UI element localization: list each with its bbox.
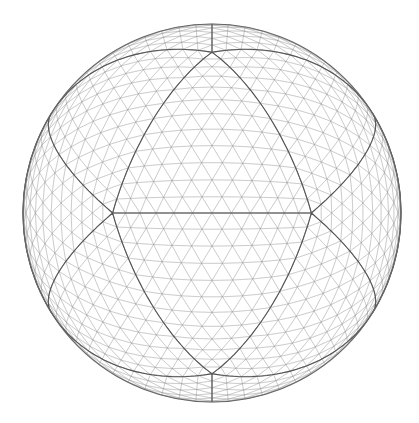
background [0,0,419,423]
geodesic-sphere-figure [0,0,419,423]
